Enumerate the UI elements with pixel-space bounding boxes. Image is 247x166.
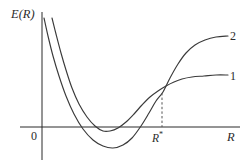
energy-curve-1 <box>52 18 228 132</box>
potential-energy-curve-figure: E(R) R 0 R* 1 2 <box>0 0 247 166</box>
r-star-base: R <box>152 132 159 144</box>
curve-1-label: 1 <box>230 70 236 82</box>
r-star-prime: * <box>159 130 163 139</box>
y-axis-label: E(R) <box>11 8 35 21</box>
energy-curve-2 <box>44 18 228 148</box>
plot-canvas <box>0 0 247 166</box>
origin-label: 0 <box>31 130 37 142</box>
r-star-tick-label: R* <box>152 131 163 144</box>
curve-2-label: 2 <box>230 30 236 42</box>
x-axis-label: R <box>227 131 235 144</box>
